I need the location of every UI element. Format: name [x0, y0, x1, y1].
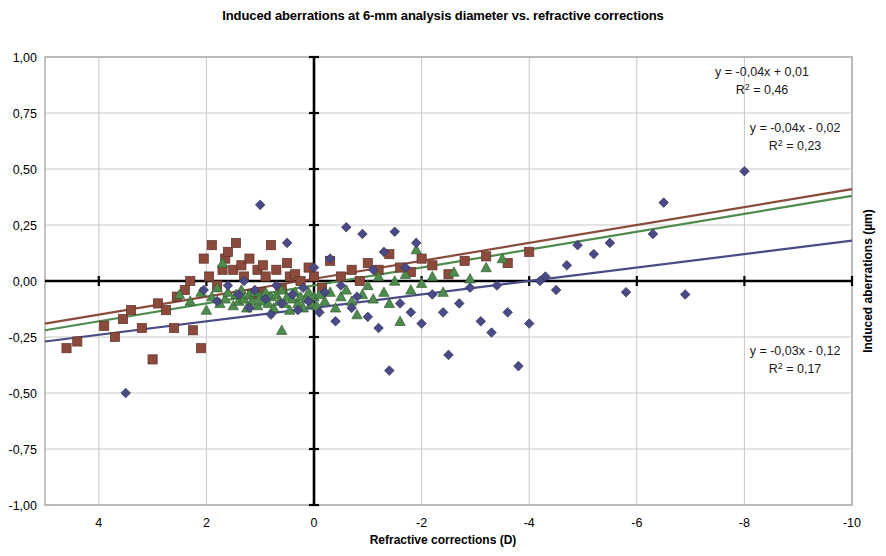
scatter-plot: 420-2-4-6-8-10 1,000,750,500,250,00-0,25…: [0, 0, 886, 556]
data-point-square: [363, 258, 372, 267]
equation-1-r2: R2 = 0,46: [736, 82, 789, 97]
data-point-square: [336, 272, 345, 281]
data-point-square: [272, 265, 281, 274]
y-tick-label: -0,50: [9, 387, 38, 401]
x-tick-label: -4: [524, 516, 535, 530]
data-point-square: [261, 272, 270, 281]
equation-3-line: y = -0,03x - 0,12: [750, 344, 841, 358]
data-point-square: [62, 344, 71, 353]
data-point-square: [73, 337, 82, 346]
data-point-square: [188, 326, 197, 335]
y-axis-title: Induced aberrations (µm): [861, 209, 875, 353]
x-tick-label: 4: [95, 516, 102, 530]
data-point-square: [283, 258, 292, 267]
data-point-square: [309, 272, 318, 281]
x-tick-label: -8: [739, 516, 750, 530]
data-point-square: [186, 276, 195, 285]
data-point-square: [196, 344, 205, 353]
y-tick-label: -0,25: [9, 331, 38, 345]
data-point-square: [110, 332, 119, 341]
data-point-square: [100, 321, 109, 330]
data-point-square: [460, 256, 469, 265]
x-tick-label: 0: [311, 516, 318, 530]
y-tick-label: 0,25: [13, 219, 37, 233]
equation-2-line: y = -0,04x - 0,02: [750, 121, 841, 135]
data-point-square: [207, 241, 216, 250]
equation-2-r2: R2 = 0,23: [769, 138, 822, 153]
equation-3-r2: R2 = 0,17: [769, 361, 822, 376]
data-point-square: [137, 323, 146, 332]
data-point-square: [199, 254, 208, 263]
y-tick-label: 1,00: [13, 51, 37, 65]
data-point-square: [245, 254, 254, 263]
data-point-square: [148, 355, 157, 364]
data-point-square: [223, 247, 232, 256]
x-axis-tick-labels: 420-2-4-6-8-10: [95, 516, 861, 530]
y-axis-tick-labels: 1,000,750,500,250,00-0,25-0,50-0,75-1,00: [9, 51, 38, 513]
data-point-square: [355, 276, 364, 285]
data-point-square: [170, 323, 179, 332]
x-tick-label: -6: [631, 516, 642, 530]
x-tick-label: -10: [843, 516, 861, 530]
data-point-square: [118, 314, 127, 323]
data-point-square: [417, 254, 426, 263]
y-tick-label: -1,00: [9, 499, 38, 513]
y-tick-label: -0,75: [9, 443, 38, 457]
data-point-square: [258, 261, 267, 270]
y-tick-label: 0,50: [13, 163, 37, 177]
data-point-square: [347, 265, 356, 274]
data-point-square: [231, 238, 240, 247]
data-point-square: [204, 272, 213, 281]
x-tick-label: -2: [416, 516, 427, 530]
data-point-square: [428, 261, 437, 270]
data-point-square: [161, 306, 170, 315]
x-tick-label: 2: [203, 516, 210, 530]
data-point-square: [126, 306, 135, 315]
x-axis-title: Refractive corrections (D): [370, 533, 517, 547]
data-point-square: [525, 247, 534, 256]
data-point-square: [266, 241, 275, 250]
y-tick-label: 0,00: [13, 275, 37, 289]
y-tick-label: 0,75: [13, 107, 37, 121]
data-point-square: [482, 252, 491, 261]
chart-container: Induced aberrations at 6-mm analysis dia…: [0, 0, 886, 556]
equation-1-line: y = -0,04x + 0,01: [715, 65, 809, 79]
